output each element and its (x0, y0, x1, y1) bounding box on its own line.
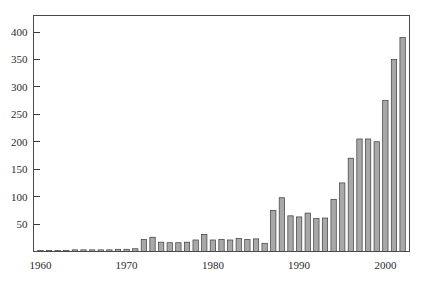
bar-2002 (400, 37, 405, 251)
bar-1981 (219, 239, 224, 251)
bar-1993 (322, 218, 327, 251)
bar-1995 (340, 183, 345, 252)
bar-1983 (236, 238, 241, 251)
y-tick-label-50: 50 (17, 218, 29, 230)
y-tick-label-300: 300 (11, 81, 28, 93)
bar-2001 (391, 59, 396, 251)
bar-1972 (141, 239, 146, 251)
x-tick-label-1960: 1960 (29, 259, 52, 271)
bar-1986 (262, 243, 267, 251)
bar-1978 (193, 240, 198, 252)
bar-1980 (210, 240, 215, 252)
bar-2000 (383, 101, 388, 252)
bar-1997 (357, 139, 362, 252)
y-tick-label-100: 100 (11, 191, 28, 203)
y-tick-label-200: 200 (11, 136, 28, 148)
bar-1975 (167, 243, 172, 252)
bar-1977 (184, 242, 189, 251)
bar-1976 (176, 243, 181, 252)
bar-1989 (288, 216, 293, 252)
x-tick-label-1980: 1980 (202, 259, 225, 271)
bar-1979 (202, 234, 207, 251)
bar-1998 (365, 139, 370, 252)
bar-1973 (150, 237, 155, 251)
bar-chart-figure: 50100150200250300350400 1960197019801990… (0, 0, 427, 286)
bar-1984 (245, 239, 250, 251)
bar-1992 (314, 219, 319, 252)
y-tick-label-250: 250 (11, 108, 28, 120)
bar-1991 (305, 213, 310, 251)
y-tick-label-150: 150 (11, 163, 28, 175)
x-tick-label-1970: 1970 (116, 259, 139, 271)
bar-1999 (374, 142, 379, 252)
bar-1988 (279, 198, 284, 252)
bar-1994 (331, 199, 336, 251)
bar-1996 (348, 158, 353, 251)
x-tick-label-1990: 1990 (288, 259, 311, 271)
bar-1982 (227, 240, 232, 252)
bar-1990 (296, 217, 301, 252)
chart-canvas: 50100150200250300350400 1960197019801990… (0, 0, 427, 286)
x-tick-label-2000: 2000 (374, 259, 397, 271)
y-tick-label-400: 400 (11, 26, 28, 38)
bar-1987 (271, 210, 276, 251)
bar-1985 (253, 239, 258, 252)
bar-1974 (158, 242, 163, 251)
y-tick-label-350: 350 (11, 53, 28, 65)
